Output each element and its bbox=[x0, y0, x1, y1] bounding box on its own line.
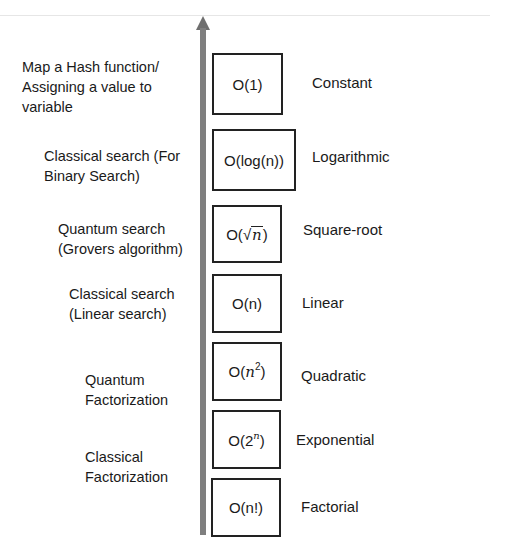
class-name-linear: Linear bbox=[302, 294, 344, 311]
notation-box-exponential: O(2n) bbox=[212, 410, 281, 469]
example-linear: Classical search (Linear search) bbox=[69, 284, 175, 324]
example-line: (Linear search) bbox=[69, 304, 175, 324]
example-line: Quantum search bbox=[58, 219, 183, 239]
example-quadratic: Quantum Factorization bbox=[85, 370, 168, 410]
notation-box-constant: O(1) bbox=[212, 53, 283, 115]
class-name-exponential: Exponential bbox=[296, 431, 374, 448]
example-line: Quantum bbox=[85, 370, 168, 390]
class-name-logarithmic: Logarithmic bbox=[312, 148, 390, 165]
example-line: (Grovers algorithm) bbox=[58, 239, 183, 259]
top-divider-line bbox=[0, 15, 490, 16]
example-exponential: Classical Factorization bbox=[85, 447, 168, 487]
class-name-factorial: Factorial bbox=[301, 498, 359, 515]
notation-box-square-root: O(√n) bbox=[212, 205, 282, 263]
example-line: Assigning a value to bbox=[22, 77, 159, 97]
example-constant: Map a Hash function/ Assigning a value t… bbox=[22, 57, 159, 117]
notation-text: O(1) bbox=[233, 76, 263, 93]
notation-text: O(√n) bbox=[226, 226, 268, 243]
complexity-axis-arrow bbox=[200, 28, 206, 535]
notation-text: O(n) bbox=[232, 295, 262, 312]
example-logarithmic: Classical search (For Binary Search) bbox=[44, 146, 180, 186]
example-line: Map a Hash function/ bbox=[22, 57, 159, 77]
notation-text: O(2n) bbox=[228, 431, 264, 449]
notation-box-logarithmic: O(log(n)) bbox=[212, 129, 296, 191]
notation-text: O(n2) bbox=[229, 362, 266, 381]
class-name-square-root: Square-root bbox=[303, 221, 382, 238]
class-name-quadratic: Quadratic bbox=[301, 367, 366, 384]
example-line: Factorization bbox=[85, 390, 168, 410]
example-square-root: Quantum search (Grovers algorithm) bbox=[58, 219, 183, 259]
class-name-constant: Constant bbox=[312, 74, 372, 91]
example-line: variable bbox=[22, 97, 159, 117]
example-line: Factorization bbox=[85, 467, 168, 487]
example-line: Classical search bbox=[69, 284, 175, 304]
notation-text: O(n!) bbox=[229, 499, 263, 516]
notation-box-linear: O(n) bbox=[212, 274, 282, 333]
example-line: Binary Search) bbox=[44, 166, 180, 186]
example-line: Classical bbox=[85, 447, 168, 467]
notation-box-quadratic: O(n2) bbox=[212, 342, 282, 401]
notation-text: O(log(n)) bbox=[224, 152, 284, 169]
notation-box-factorial: O(n!) bbox=[211, 478, 281, 537]
example-line: Classical search (For bbox=[44, 146, 180, 166]
